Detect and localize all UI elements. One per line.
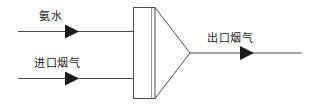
reactor-converging-cone [155,8,190,99]
process-flow-diagram: 氨水 进口烟气 出口烟气 [0,0,310,107]
ammonia-stream-label: 氨水 [39,10,62,23]
outlet-flue-gas-stream-arrow-icon [240,46,254,60]
outlet-flue-gas-stream-label: 出口烟气 [207,32,253,45]
ammonia-stream-arrow-icon [65,25,79,39]
inlet-flue-gas-stream-arrow-icon [65,72,79,86]
inlet-flue-gas-stream-label: 进口烟气 [34,57,80,70]
